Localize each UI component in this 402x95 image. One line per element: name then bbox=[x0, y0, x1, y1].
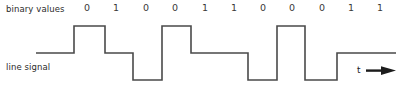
right-arrow-icon bbox=[366, 63, 398, 79]
time-axis-label: t bbox=[357, 65, 361, 75]
waveform-path bbox=[36, 26, 396, 80]
line-coding-figure: binary values line signal 01001100011 t bbox=[0, 0, 402, 95]
line-signal-waveform bbox=[0, 0, 402, 95]
